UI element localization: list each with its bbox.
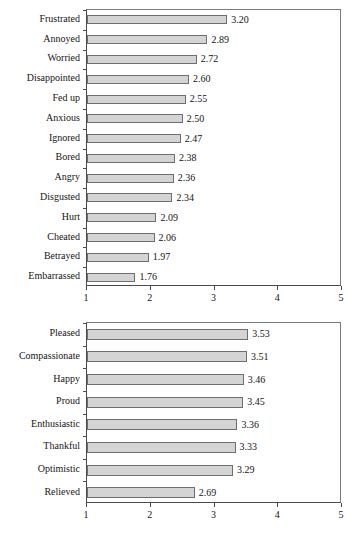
x-axis-tick-label: 5 — [339, 293, 344, 303]
x-axis-tick — [277, 503, 278, 507]
x-axis-negative: 12345 — [0, 0, 355, 310]
x-axis-tick-label: 3 — [211, 293, 216, 303]
x-axis-tick — [86, 286, 87, 290]
chart-positive-emotions: 3.533.513.463.453.363.333.292.69 Pleased… — [0, 315, 355, 533]
x-axis-tick-label: 2 — [147, 510, 152, 520]
x-axis-tick-label: 4 — [275, 510, 280, 520]
chart-negative-emotions: 3.202.892.722.602.552.502.472.382.362.34… — [0, 0, 355, 310]
x-axis-tick-label: 4 — [275, 293, 280, 303]
x-axis-tick-label: 1 — [84, 293, 89, 303]
x-axis-tick — [214, 503, 215, 507]
x-axis-tick-label: 3 — [211, 510, 216, 520]
x-axis-tick — [214, 286, 215, 290]
x-axis-tick-label: 2 — [147, 293, 152, 303]
x-axis-tick — [86, 503, 87, 507]
x-axis-positive: 12345 — [0, 315, 355, 533]
x-axis-tick — [150, 503, 151, 507]
x-axis-tick — [277, 286, 278, 290]
x-axis-tick — [150, 286, 151, 290]
x-axis-tick-label: 1 — [84, 510, 89, 520]
x-axis-tick — [341, 286, 342, 290]
x-axis-tick-label: 5 — [339, 510, 344, 520]
x-axis-tick — [341, 503, 342, 507]
